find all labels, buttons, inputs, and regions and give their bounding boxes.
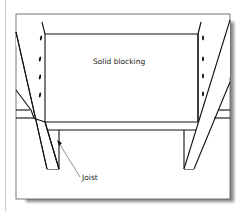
blocking-diagram — [0, 0, 246, 211]
joist-label: Joist — [82, 173, 98, 182]
solid-blocking-label: Solid blocking — [93, 57, 145, 66]
